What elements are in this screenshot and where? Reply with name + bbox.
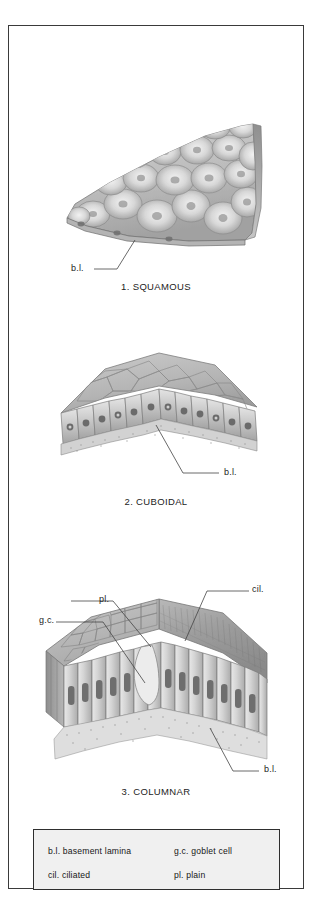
- columnar-label-cil: cil.: [252, 584, 264, 594]
- columnar-epithelium-artwork: [9, 521, 305, 811]
- squamous-cell-mosaic: [68, 116, 267, 234]
- squamous-label-bl: b.l.: [71, 263, 84, 273]
- squamous-epithelium-artwork: [9, 26, 305, 291]
- columnar-label-gc: g.c.: [39, 615, 54, 625]
- figure-columnar: pl. g.c. cil. b.l. 3. COLUMNAR: [9, 521, 303, 811]
- legend-entry-cil: cil. ciliated: [48, 870, 90, 880]
- figure-squamous: b.l. 1. SQUAMOUS: [9, 26, 303, 291]
- cuboidal-caption: 2. CUBOIDAL: [9, 496, 303, 507]
- legend-entry-bl: b.l. basement lamina: [48, 846, 131, 856]
- abbreviation-legend: b.l. basement lamina g.c. goblet cell ci…: [33, 829, 280, 890]
- legend-entry-pl: pl. plain: [174, 870, 205, 880]
- legend-entry-gc: g.c. goblet cell: [174, 846, 232, 856]
- columnar-caption: 3. COLUMNAR: [9, 786, 303, 797]
- figure-cuboidal: b.l. 2. CUBOIDAL: [9, 291, 303, 521]
- squamous-bl-leader-line: [94, 240, 135, 269]
- columnar-label-bl: b.l.: [264, 764, 277, 774]
- illustration-plate: b.l. 1. SQUAMOUS: [8, 25, 304, 889]
- columnar-label-pl: pl.: [99, 594, 109, 604]
- cuboidal-epithelium-artwork: [9, 291, 305, 521]
- cuboidal-label-bl: b.l.: [224, 467, 237, 477]
